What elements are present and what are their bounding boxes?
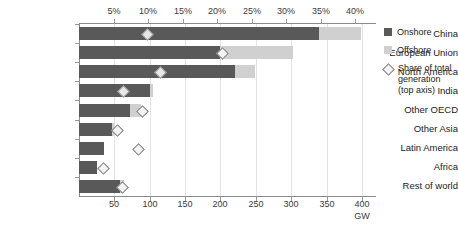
top-tick-mark — [148, 19, 149, 24]
bar-offshore — [150, 84, 152, 97]
bottom-tick-label: 100 — [130, 199, 170, 209]
bar-offshore — [220, 46, 293, 59]
category-label: Rest of world — [382, 180, 458, 191]
top-tick-mark — [286, 19, 287, 24]
bottom-axis-line — [79, 196, 376, 197]
bar-onshore — [79, 161, 97, 174]
bar-offshore — [235, 65, 256, 78]
bar-onshore — [79, 27, 319, 40]
category-label: Latin America — [382, 142, 458, 153]
bar-onshore — [79, 84, 150, 97]
bottom-tick-label: 400 — [342, 199, 382, 209]
legend-label-offshore: Offshore — [397, 45, 431, 56]
top-tick-mark — [355, 19, 356, 24]
top-tick-mark — [114, 19, 115, 24]
top-tick-label: 40% — [335, 6, 375, 16]
share-diamond-marker — [132, 143, 145, 156]
bottom-tick-label: 200 — [200, 199, 240, 209]
category-tick-mark — [75, 43, 79, 44]
top-tick-label: 30% — [266, 6, 306, 16]
bottom-tick-label: 350 — [307, 199, 347, 209]
legend-item-onshore[interactable]: Onshore — [384, 27, 458, 38]
category-tick-mark — [75, 158, 79, 159]
bar-onshore — [79, 46, 220, 59]
gridline — [362, 24, 363, 196]
x-axis-unit-label: GW — [342, 211, 382, 221]
category-tick-mark — [75, 100, 79, 101]
chart-legend: Onshore Offshore Share of total generati… — [384, 27, 458, 103]
category-label: Other OECD — [382, 104, 458, 115]
category-tick-mark — [75, 120, 79, 121]
category-tick-mark — [75, 81, 79, 82]
legend-item-offshore[interactable]: Offshore — [384, 45, 458, 56]
category-tick-mark — [75, 177, 79, 178]
top-tick-mark — [217, 19, 218, 24]
legend-label-onshore: Onshore — [397, 27, 432, 38]
share-diamond-marker — [97, 162, 110, 175]
top-tick-mark — [321, 19, 322, 24]
category-tick-mark — [75, 62, 79, 63]
wind-capacity-chart: 5%10%15%20%25%30%35%40% 5010015020025030… — [0, 0, 458, 232]
onshore-swatch-icon — [384, 28, 392, 36]
category-label: Other Asia — [382, 123, 458, 134]
bottom-tick-label: 300 — [271, 199, 311, 209]
legend-label-share-line3: (top axis) — [398, 85, 435, 95]
offshore-swatch-icon — [384, 46, 392, 54]
category-tick-mark — [75, 139, 79, 140]
top-tick-label: 20% — [197, 6, 237, 16]
bar-onshore — [79, 104, 130, 117]
bar-offshore — [319, 27, 361, 40]
legend-label-share-line2: generation — [398, 74, 441, 84]
bottom-tick-label: 150 — [165, 199, 205, 209]
bar-onshore — [79, 123, 112, 136]
category-label: Africa — [382, 161, 458, 172]
top-tick-mark — [183, 19, 184, 24]
top-tick-label: 10% — [128, 6, 168, 16]
legend-label-share-line1: Share of total — [398, 63, 452, 73]
bottom-tick-label: 250 — [236, 199, 276, 209]
legend-item-share[interactable]: Share of total generation (top axis) — [384, 63, 458, 96]
top-axis-line — [79, 23, 376, 24]
gridline — [327, 24, 328, 196]
legend-label-share: Share of total generation (top axis) — [398, 63, 452, 96]
bar-onshore — [79, 180, 120, 193]
category-tick-mark — [75, 24, 79, 25]
bottom-tick-label: 50 — [94, 199, 134, 209]
diamond-marker-icon — [382, 63, 395, 76]
top-tick-mark — [252, 19, 253, 24]
bar-onshore — [79, 142, 104, 155]
